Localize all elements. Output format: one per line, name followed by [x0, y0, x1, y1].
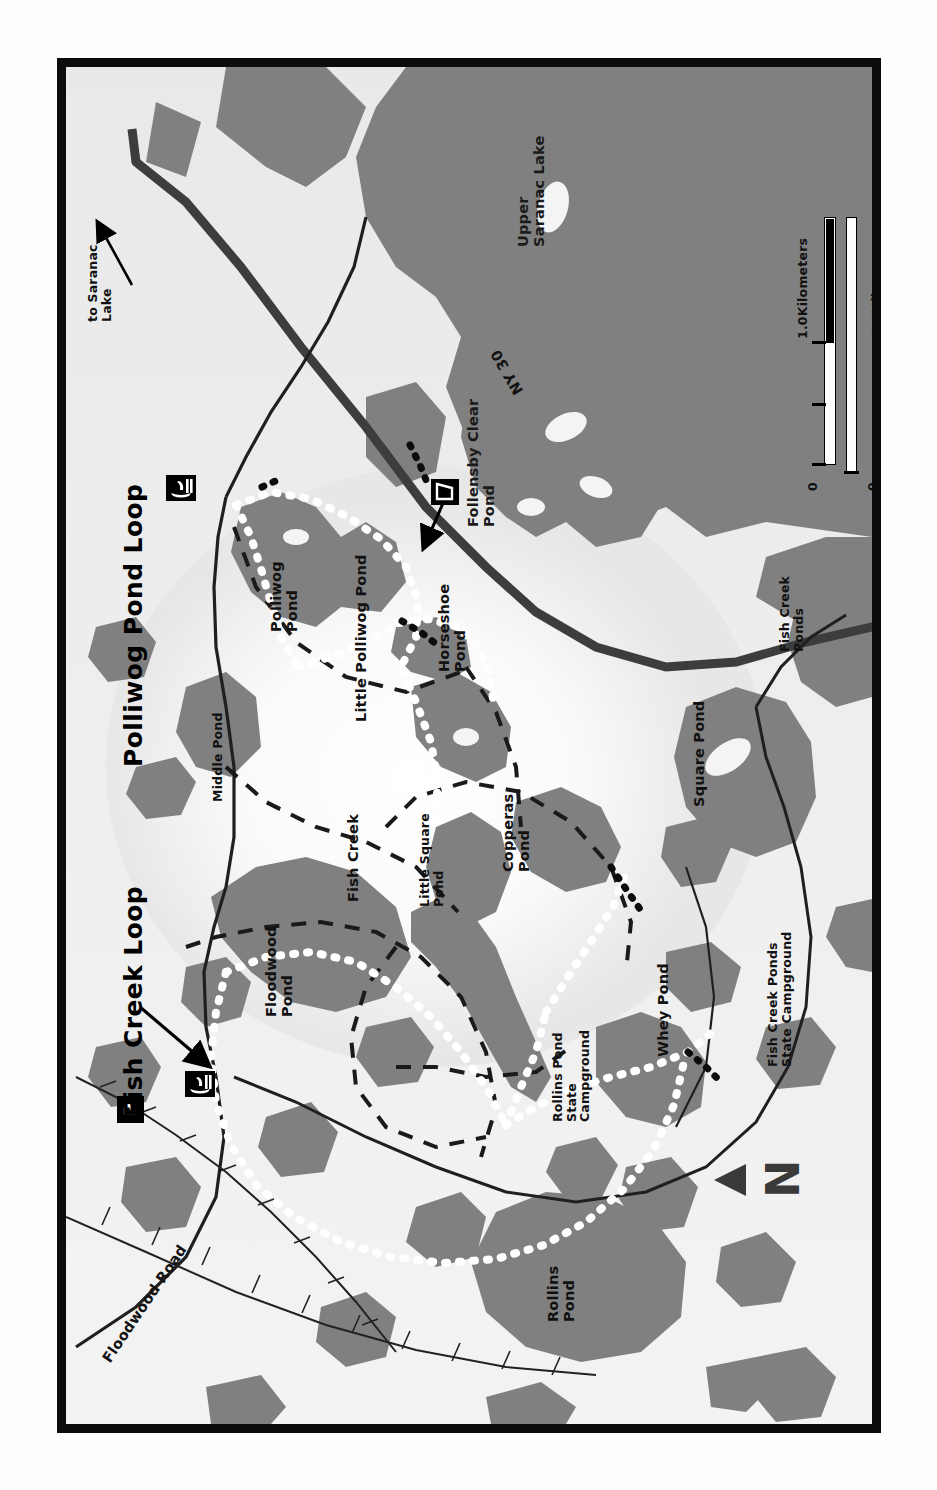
north-arrow-triangle — [710, 1158, 754, 1202]
pointer-arrow-lean-to — [402, 495, 472, 565]
boat-launch-icon — [166, 475, 196, 501]
scale-bar-mi — [846, 217, 857, 473]
north-letter: N — [756, 1160, 810, 1199]
svg-text:P: P — [121, 1103, 141, 1115]
scale-tick-km-quarter — [812, 403, 826, 406]
scale-tick-mi-end — [844, 471, 859, 474]
pointer-arrow-fish-creek — [126, 997, 236, 1087]
marker-parking[interactable]: P — [117, 1096, 144, 1123]
map-frame: P — [57, 58, 881, 1433]
map-canvas: P — [66, 67, 872, 1424]
scale-tick-km-mid — [812, 341, 826, 344]
map-graphics — [66, 67, 872, 1424]
scale-tick-km-end — [812, 463, 826, 466]
scale-bar-km-fill — [826, 219, 834, 343]
pointer-arrow-saranac — [80, 207, 170, 297]
marker-boat-launch-polliwog[interactable] — [166, 475, 196, 501]
map-page: P — [0, 0, 937, 1490]
parking-icon: P — [117, 1096, 144, 1123]
